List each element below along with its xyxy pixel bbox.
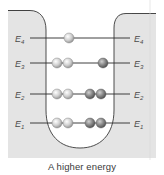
left-margin	[0, 0, 8, 175]
figure-caption: A higher energy	[0, 161, 164, 172]
dark-particle	[85, 118, 95, 128]
dark-particle	[98, 58, 108, 68]
right-margin	[156, 0, 164, 175]
light-particle	[63, 58, 73, 68]
dark-particle	[96, 89, 106, 99]
dark-particle	[96, 118, 106, 128]
potential-well-svg: E4 E4 E3 E3 E2 E2	[0, 0, 164, 175]
dark-particle	[85, 89, 95, 99]
energy-level-diagram: E4 E4 E3 E3 E2 E2	[0, 0, 164, 175]
light-particle	[64, 33, 74, 43]
light-particle	[52, 58, 62, 68]
top-margin	[0, 0, 164, 10]
light-particle	[63, 89, 73, 99]
light-particle	[52, 118, 62, 128]
light-particle	[63, 118, 73, 128]
light-particle	[52, 89, 62, 99]
